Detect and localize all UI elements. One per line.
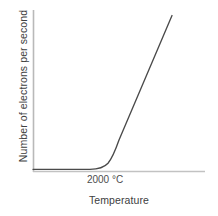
x-axis-tick-label-2000c: 2000 °C bbox=[60, 174, 150, 185]
chart-figure: Number of electrons per second 2000 °C T… bbox=[0, 0, 218, 216]
x-axis-label: Temperature bbox=[33, 194, 205, 206]
data-curve-thermionic-emission bbox=[33, 16, 172, 170]
